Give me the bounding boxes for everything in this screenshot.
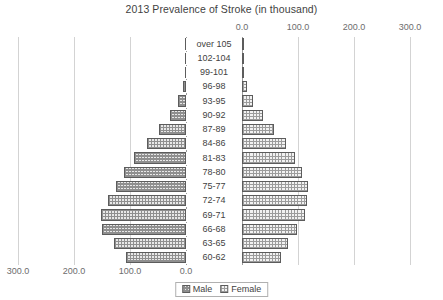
age-group-label: over 105 bbox=[186, 38, 242, 51]
bar-female-63-65 bbox=[242, 238, 288, 249]
bar-male-87-89 bbox=[159, 124, 186, 135]
bar-female-69-71 bbox=[242, 209, 305, 220]
bar-female-96-98 bbox=[242, 81, 247, 92]
bar-female-84-86 bbox=[242, 138, 286, 149]
bar-female-81-83 bbox=[242, 152, 295, 163]
pyramid-row: 75-77 bbox=[0, 180, 443, 194]
bar-male-93-95 bbox=[178, 95, 186, 106]
bar-female-102-104 bbox=[242, 53, 244, 64]
pyramid-row: 72-74 bbox=[0, 194, 443, 208]
chart-title: 2013 Prevalence of Stroke (in thousand) bbox=[0, 3, 443, 15]
female-pattern-swatch bbox=[220, 285, 228, 293]
bar-female-75-77 bbox=[242, 181, 308, 192]
age-group-label: 72-74 bbox=[186, 194, 242, 207]
pyramid-row: 99-101 bbox=[0, 66, 443, 80]
pyramid-row: 63-65 bbox=[0, 237, 443, 251]
age-group-label: 69-71 bbox=[186, 209, 242, 222]
bar-female-93-95 bbox=[242, 95, 253, 106]
bar-female-66-68 bbox=[242, 224, 297, 235]
age-group-label: 93-95 bbox=[186, 95, 242, 108]
age-group-label: 78-80 bbox=[186, 166, 242, 179]
legend-label: Female bbox=[231, 284, 261, 294]
pyramid-row: 66-68 bbox=[0, 222, 443, 236]
male-axis-tick-labels: 300.0200.0100.00.0 bbox=[0, 266, 443, 278]
pyramid-row: 84-86 bbox=[0, 137, 443, 151]
age-group-label: 96-98 bbox=[186, 80, 242, 93]
bar-male-78-80 bbox=[124, 167, 186, 178]
bar-female-78-80 bbox=[242, 167, 302, 178]
age-group-label: 90-92 bbox=[186, 109, 242, 122]
bar-female-87-89 bbox=[242, 124, 274, 135]
tick-label-male-100: 100.0 bbox=[119, 266, 142, 276]
bar-female-over-105 bbox=[242, 38, 244, 49]
legend-item-female[interactable]: Female bbox=[220, 284, 261, 294]
bar-female-90-92 bbox=[242, 110, 263, 121]
stroke-prevalence-pyramid-chart: 2013 Prevalence of Stroke (in thousand) … bbox=[0, 0, 443, 300]
tick-label-female-200: 200.0 bbox=[343, 22, 366, 32]
pyramid-row: 69-71 bbox=[0, 208, 443, 222]
pyramid-row: 81-83 bbox=[0, 151, 443, 165]
pyramid-row: 60-62 bbox=[0, 251, 443, 265]
pyramid-row: 87-89 bbox=[0, 123, 443, 137]
bar-male-69-71 bbox=[101, 209, 186, 220]
pyramid-row: 96-98 bbox=[0, 80, 443, 94]
bar-female-72-74 bbox=[242, 195, 307, 206]
age-group-label: 60-62 bbox=[186, 251, 242, 264]
age-group-label: 63-65 bbox=[186, 237, 242, 250]
tick-label-female-0: 0.0 bbox=[236, 22, 249, 32]
age-group-label: 81-83 bbox=[186, 152, 242, 165]
tick-label-male-200: 200.0 bbox=[63, 266, 86, 276]
age-group-label: 87-89 bbox=[186, 123, 242, 136]
legend-item-male[interactable]: Male bbox=[182, 284, 213, 294]
pyramid-row: 102-104 bbox=[0, 51, 443, 65]
tick-label-male-0: 0.0 bbox=[180, 266, 193, 276]
bar-female-60-62 bbox=[242, 252, 281, 263]
age-group-label: 84-86 bbox=[186, 137, 242, 150]
bar-male-63-65 bbox=[114, 238, 186, 249]
pyramid-row: 90-92 bbox=[0, 108, 443, 122]
bar-male-81-83 bbox=[134, 152, 186, 163]
age-group-label: 66-68 bbox=[186, 223, 242, 236]
pyramid-row: over 105 bbox=[0, 37, 443, 51]
chart-legend: MaleFemale bbox=[175, 282, 269, 297]
age-group-label: 102-104 bbox=[186, 52, 242, 65]
male-pattern-swatch bbox=[182, 285, 190, 293]
bar-female-99-101 bbox=[242, 67, 244, 78]
bar-male-90-92 bbox=[170, 110, 186, 121]
bar-male-66-68 bbox=[102, 224, 186, 235]
legend-label: Male bbox=[193, 284, 213, 294]
tick-label-female-300: 300.0 bbox=[399, 22, 422, 32]
age-group-label: 99-101 bbox=[186, 66, 242, 79]
pyramid-row: 78-80 bbox=[0, 165, 443, 179]
bar-male-75-77 bbox=[116, 181, 186, 192]
tick-label-female-100: 100.0 bbox=[287, 22, 310, 32]
bar-male-72-74 bbox=[108, 195, 186, 206]
bar-male-60-62 bbox=[126, 252, 186, 263]
age-group-label: 75-77 bbox=[186, 180, 242, 193]
tick-label-male-300: 300.0 bbox=[7, 266, 30, 276]
plot-area: over 105102-10499-10196-9893-9590-9287-8… bbox=[0, 37, 443, 265]
female-axis-tick-labels: 0.0100.0200.0300.0 bbox=[0, 22, 443, 34]
pyramid-row: 93-95 bbox=[0, 94, 443, 108]
bar-male-84-86 bbox=[147, 138, 186, 149]
